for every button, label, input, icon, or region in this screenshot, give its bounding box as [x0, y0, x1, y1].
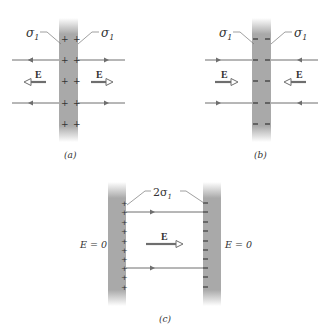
field-line-arrow-icon [150, 210, 155, 215]
sigma-label-left: σ1 [26, 26, 39, 42]
svg-text:E: E [35, 69, 42, 80]
field-line-arrow-icon [216, 101, 221, 106]
svg-text:+: + [61, 119, 69, 129]
svg-text:E: E [221, 69, 228, 80]
svg-text:+: + [121, 255, 128, 264]
positive-charges: + + + + + + + + + + [121, 199, 128, 292]
svg-text:+: + [73, 119, 81, 129]
svg-text:+: + [61, 98, 69, 108]
e-field-arrow-left: E [215, 69, 238, 86]
field-line-arrow-icon [297, 101, 302, 106]
panel-b: σ1 σ1 E E (b) [205, 18, 318, 160]
svg-text:+: + [61, 55, 69, 65]
sigma-label-right: σ1 [294, 26, 307, 42]
svg-text:+: + [121, 227, 128, 236]
sigma-label-left: σ1 [219, 26, 232, 42]
svg-text:+: + [73, 98, 81, 108]
svg-text:+: + [121, 218, 128, 227]
svg-text:E: E [161, 231, 168, 242]
field-line-arrow-icon [28, 101, 33, 106]
e-field-arrow-left: E [24, 69, 46, 86]
field-line-arrow-icon [104, 58, 109, 63]
outside-field-right: E = 0 [224, 239, 252, 250]
charged-plates-diagram: + + + + + + + + + + σ1 σ1 E E (a) [0, 0, 333, 329]
leader-line [127, 191, 151, 205]
caption-a: (a) [64, 150, 77, 160]
svg-text:+: + [73, 76, 81, 86]
field-line-arrow-icon [104, 101, 109, 106]
sigma-label-right: σ1 [101, 26, 114, 42]
svg-text:E: E [296, 69, 303, 80]
e-field-arrow-right: E [91, 69, 113, 86]
field-line-arrow-icon [216, 58, 221, 63]
outside-field-left: E = 0 [79, 239, 107, 250]
svg-text:+: + [61, 34, 69, 44]
svg-text:+: + [121, 237, 128, 246]
svg-text:E: E [96, 69, 103, 80]
svg-text:+: + [73, 55, 81, 65]
svg-text:+: + [121, 208, 128, 217]
leader-line [233, 32, 254, 44]
caption-c: (c) [159, 314, 172, 324]
panel-a: + + + + + + + + + + σ1 σ1 E E (a) [12, 18, 125, 160]
leader-line [180, 191, 204, 203]
svg-text:+: + [121, 264, 128, 273]
field-line-arrow-icon [150, 266, 155, 271]
svg-text:+: + [121, 246, 128, 255]
leader-line [271, 32, 292, 44]
field-line-arrow-icon [297, 58, 302, 63]
caption-b: (b) [254, 150, 267, 160]
svg-text:+: + [121, 273, 128, 282]
svg-text:+: + [121, 199, 128, 208]
svg-text:+: + [121, 283, 128, 292]
e-field-arrow-right: E [284, 69, 306, 86]
leader-line [40, 32, 61, 44]
panel-c: + + + + + + + + + + 2σ1 [79, 182, 252, 324]
leader-line [78, 32, 99, 44]
svg-text:+: + [61, 76, 69, 86]
e-field-arrow: E [146, 231, 183, 248]
charge-density-label: 2σ1 [153, 186, 172, 201]
